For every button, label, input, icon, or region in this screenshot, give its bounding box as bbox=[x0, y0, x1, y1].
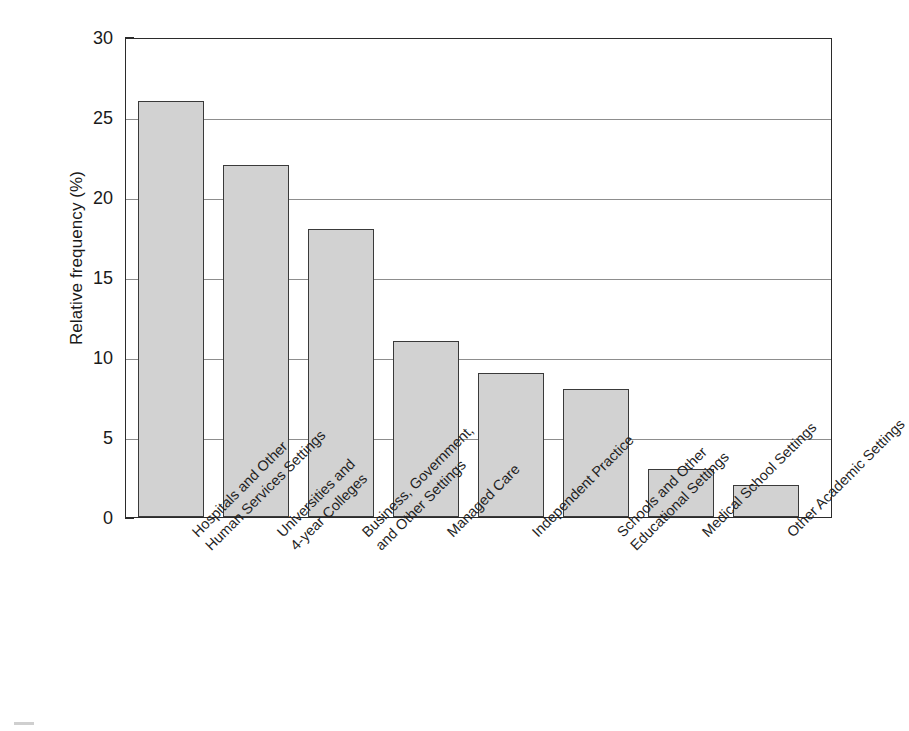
y-axis-tick-label: 25 bbox=[53, 109, 113, 127]
y-axis-tick-label: 0 bbox=[53, 509, 113, 527]
y-axis-tick-label: 20 bbox=[53, 189, 113, 207]
y-axis-tick-label: 15 bbox=[53, 269, 113, 287]
y-axis-tick-label: 10 bbox=[53, 349, 113, 367]
gridline bbox=[126, 119, 831, 120]
y-axis-tick-label: 30 bbox=[53, 29, 113, 47]
page-corner-mark bbox=[14, 722, 34, 725]
y-axis-tick-label: 5 bbox=[53, 429, 113, 447]
bar bbox=[138, 101, 204, 517]
